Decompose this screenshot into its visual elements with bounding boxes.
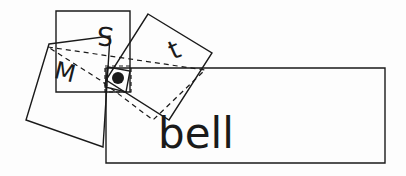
center-dot: [112, 72, 124, 84]
word-bell: bell: [158, 109, 234, 158]
sketch-canvas: S t M bell: [0, 0, 406, 176]
letter-s: S: [96, 20, 115, 51]
letter-s-group: S: [96, 20, 115, 51]
sketch-drawing: S t M bell: [0, 0, 406, 176]
word-bell-group: bell: [158, 109, 234, 158]
